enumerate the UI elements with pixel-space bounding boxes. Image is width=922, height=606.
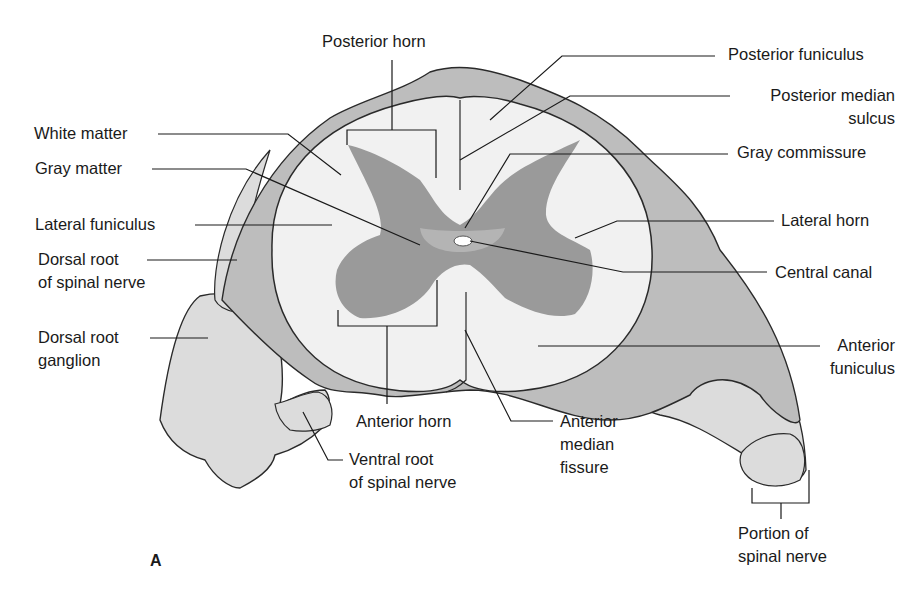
label-central-canal: Central canal bbox=[775, 261, 872, 284]
label-dorsal-root-ganglion-line2: ganglion bbox=[38, 349, 119, 372]
label-posterior-median-sulcus-line2: sulcus bbox=[770, 107, 895, 130]
label-dorsal-root-ganglion: Dorsal root ganglion bbox=[38, 326, 119, 372]
central-canal-shape bbox=[454, 236, 472, 246]
label-posterior-funiculus: Posterior funiculus bbox=[728, 43, 864, 66]
label-posterior-median-sulcus-line1: Posterior median bbox=[770, 84, 895, 107]
label-ventral-root: Ventral root of spinal nerve bbox=[349, 448, 456, 494]
label-dorsal-root-ganglion-line1: Dorsal root bbox=[38, 326, 119, 349]
label-ventral-root-line2: of spinal nerve bbox=[349, 471, 456, 494]
label-lateral-horn: Lateral horn bbox=[781, 209, 869, 232]
label-gray-matter: Gray matter bbox=[35, 157, 122, 180]
label-white-matter: White matter bbox=[34, 122, 128, 145]
label-portion-spinal-nerve-line1: Portion of bbox=[738, 522, 827, 545]
label-posterior-horn: Posterior horn bbox=[322, 30, 426, 53]
label-anterior-funiculus-line2: funiculus bbox=[830, 357, 895, 380]
label-ventral-root-line1: Ventral root bbox=[349, 448, 456, 471]
label-anterior-funiculus-line1: Anterior bbox=[830, 334, 895, 357]
label-anterior-funiculus: Anterior funiculus bbox=[830, 334, 895, 380]
label-portion-spinal-nerve-line2: spinal nerve bbox=[738, 545, 827, 568]
label-anterior-median-fissure-line1: Anterior bbox=[560, 410, 618, 433]
label-gray-commissure: Gray commissure bbox=[737, 141, 866, 164]
label-anterior-horn: Anterior horn bbox=[356, 410, 451, 433]
label-anterior-median-fissure-line3: fissure bbox=[560, 456, 618, 479]
panel-label: A bbox=[150, 552, 162, 570]
label-anterior-median-fissure-line2: median bbox=[560, 433, 618, 456]
label-dorsal-root: Dorsal root of spinal nerve bbox=[38, 248, 145, 294]
label-portion-spinal-nerve: Portion of spinal nerve bbox=[738, 522, 827, 568]
label-lateral-funiculus: Lateral funiculus bbox=[35, 213, 155, 236]
label-dorsal-root-line1: Dorsal root bbox=[38, 248, 145, 271]
label-anterior-median-fissure: Anterior median fissure bbox=[560, 410, 618, 479]
label-posterior-median-sulcus: Posterior median sulcus bbox=[770, 84, 895, 130]
label-dorsal-root-line2: of spinal nerve bbox=[38, 271, 145, 294]
